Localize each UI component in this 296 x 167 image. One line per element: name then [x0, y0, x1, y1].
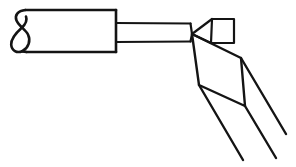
shaft-top-edge — [116, 23, 191, 24]
figure-root — [0, 0, 296, 167]
shaft-bottom-edge — [116, 42, 191, 43]
handle-tail-loop-closure — [22, 51, 27, 52]
page-background — [0, 0, 296, 167]
technical-line-drawing — [0, 0, 296, 167]
